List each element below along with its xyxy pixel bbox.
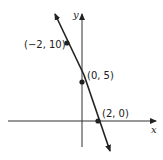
coordinate-graph: x y (−2, 10) (0, 5) (2, 0): [0, 0, 163, 160]
point-0-5: [79, 79, 84, 84]
point-label-neg2-10: (−2, 10): [24, 39, 66, 50]
point-label-0-5: (0, 5): [87, 70, 114, 81]
point-label-2-0: (2, 0): [102, 108, 129, 119]
x-axis-label: x: [151, 124, 157, 135]
y-axis-label: y: [72, 9, 79, 20]
point-2-0: [95, 118, 100, 123]
